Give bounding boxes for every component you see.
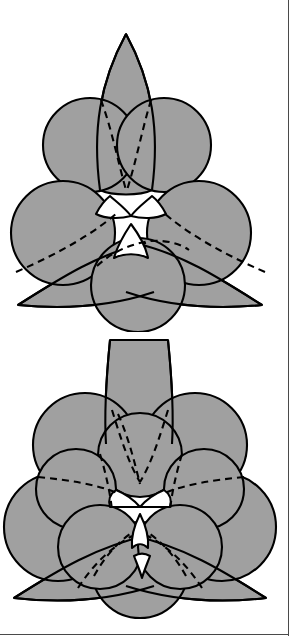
upper-packing-diagram: .g { fill:#a0a0a0; stroke:#000000; strok… <box>0 0 292 332</box>
page-canvas: .g { fill:#a0a0a0; stroke:#000000; strok… <box>0 0 292 643</box>
frame-bottom-border <box>0 634 289 635</box>
figure-top-container: .g { fill:#a0a0a0; stroke:#000000; strok… <box>0 0 292 332</box>
figure-bottom-container: .g2 { fill:#a0a0a0; stroke:#000000; stro… <box>0 332 292 632</box>
gap-lower-center <box>132 514 148 548</box>
frame-right-border <box>288 0 289 636</box>
circle-inner-bottom-right <box>138 505 222 589</box>
lower-packing-diagram: .g2 { fill:#a0a0a0; stroke:#000000; stro… <box>0 332 292 632</box>
circle-upper-right <box>117 98 211 192</box>
circle-inner-bottom-left <box>58 505 142 589</box>
